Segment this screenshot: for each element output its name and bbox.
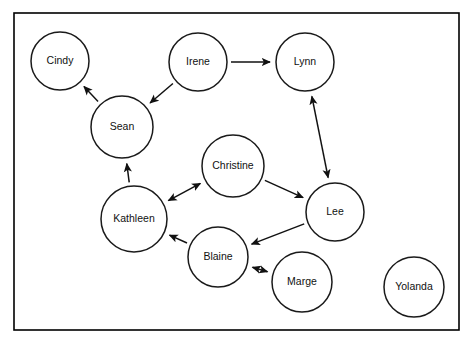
node-lee[interactable]: Lee xyxy=(306,183,364,241)
node-lynn[interactable]: Lynn xyxy=(276,33,334,91)
node-blaine[interactable]: Blaine xyxy=(188,227,248,287)
node-yolanda[interactable]: Yolanda xyxy=(384,257,444,317)
node-circle-lynn[interactable] xyxy=(276,33,334,91)
node-marge[interactable]: Marge xyxy=(272,252,332,312)
network-graph: CindyIreneLynnSeanChristineLeeKathleenBl… xyxy=(0,0,474,343)
node-circle-kathleen[interactable] xyxy=(101,186,167,252)
node-circle-sean[interactable] xyxy=(91,96,153,158)
node-circle-irene[interactable] xyxy=(169,33,227,91)
diagram-canvas: CindyIreneLynnSeanChristineLeeKathleenBl… xyxy=(0,0,474,343)
node-circle-christine[interactable] xyxy=(202,135,264,197)
node-christine[interactable]: Christine xyxy=(202,135,264,197)
node-circle-lee[interactable] xyxy=(306,183,364,241)
node-cindy[interactable]: Cindy xyxy=(31,32,89,90)
node-circle-cindy[interactable] xyxy=(31,32,89,90)
node-circle-yolanda[interactable] xyxy=(384,257,444,317)
node-circle-marge[interactable] xyxy=(272,252,332,312)
node-kathleen[interactable]: Kathleen xyxy=(101,186,167,252)
node-sean[interactable]: Sean xyxy=(91,96,153,158)
node-irene[interactable]: Irene xyxy=(169,33,227,91)
node-circle-blaine[interactable] xyxy=(188,227,248,287)
